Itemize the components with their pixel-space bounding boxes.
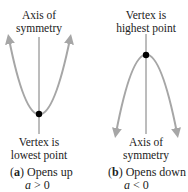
vertex-label-a-line1: Vertex is xyxy=(4,136,74,149)
caption-a-letter: a xyxy=(14,165,20,179)
axis-label-a: Axis of symmetry xyxy=(8,9,70,35)
vertex-label-a: Vertex is lowest point xyxy=(4,136,74,162)
condition-a-rest: > 0 xyxy=(31,178,50,192)
axis-label-a-line2: symmetry xyxy=(8,22,70,35)
vertex-point-b xyxy=(143,52,149,58)
vertex-point-a xyxy=(36,111,42,117)
vertex-label-b-line1: Vertex is xyxy=(110,9,182,22)
axis-label-b-line1: Axis of xyxy=(115,136,177,149)
caption-b-letter: b xyxy=(112,165,119,179)
vertex-label-b: Vertex is highest point xyxy=(110,9,182,35)
vertex-label-a-line2: lowest point xyxy=(4,149,74,162)
condition-a: a > 0 xyxy=(25,179,50,192)
condition-b: a < 0 xyxy=(124,179,149,192)
axis-label-b: Axis of symmetry xyxy=(115,136,177,162)
caption-a-text: Opens up xyxy=(27,165,73,179)
condition-b-rest: < 0 xyxy=(130,178,149,192)
axis-label-b-line2: symmetry xyxy=(115,149,177,162)
vertex-label-b-line2: highest point xyxy=(110,22,182,35)
axis-label-a-line1: Axis of xyxy=(8,9,70,22)
caption-b-text: Opens down xyxy=(126,165,186,179)
